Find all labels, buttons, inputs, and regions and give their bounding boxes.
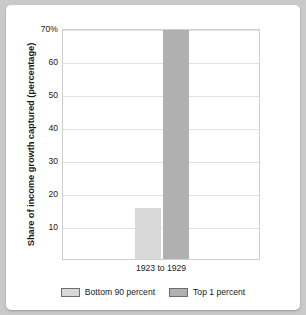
legend-label: Bottom 90 percent (85, 287, 155, 297)
bar-bottom-90-percent (135, 208, 161, 259)
gridline (63, 129, 259, 130)
plot-area (62, 29, 260, 260)
y-axis-tick-label: 40 (10, 123, 62, 133)
y-axis-tick-label: 60 (10, 57, 62, 67)
chart-legend: Bottom 90 percentTop 1 percent (6, 287, 300, 297)
legend-swatch-icon (169, 288, 188, 297)
y-axis-tick-labels: 70%605040302010 (6, 29, 62, 260)
legend-entry[interactable]: Top 1 percent (169, 287, 245, 297)
x-axis-category-label: 1923 to 1929 (62, 263, 260, 273)
legend-swatch-icon (61, 288, 80, 297)
legend-label: Top 1 percent (193, 287, 245, 297)
y-axis-tick-label: 10 (10, 222, 62, 232)
gridline (63, 63, 259, 64)
y-axis-tick-label: 70% (10, 24, 62, 34)
chart-figure: Share of income growth captured (percent… (6, 5, 300, 310)
y-axis-tick-label: 30 (10, 156, 62, 166)
gridline (63, 30, 259, 31)
y-axis-tick-label: 20 (10, 189, 62, 199)
legend-entry[interactable]: Bottom 90 percent (61, 287, 155, 297)
bar-top-1-percent (163, 30, 189, 259)
y-axis-tick-label: 50 (10, 90, 62, 100)
gridline (63, 195, 259, 196)
gridline (63, 96, 259, 97)
gridline (63, 228, 259, 229)
gridline (63, 162, 259, 163)
